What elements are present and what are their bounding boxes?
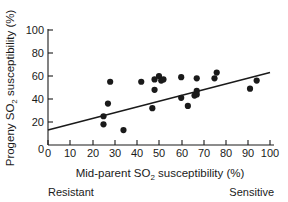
y-tick-label: 80 bbox=[32, 47, 44, 59]
y-tick-label: 40 bbox=[32, 93, 44, 105]
resistant-endpoint-label: Resistant bbox=[48, 186, 94, 198]
x-tick-label: 90 bbox=[242, 147, 254, 159]
x-axis-title-post: susceptibility (%) bbox=[155, 167, 245, 179]
y-tick-label: 0 bbox=[38, 143, 44, 155]
x-axis-title: Mid-parent SO2 susceptibility (%) bbox=[76, 167, 245, 182]
data-point bbox=[160, 76, 166, 82]
x-axis-tick-labels: 0 10 20 30 40 50 60 70 80 90 100 bbox=[45, 147, 279, 159]
data-point bbox=[194, 91, 200, 97]
data-point bbox=[178, 95, 184, 101]
data-point bbox=[194, 75, 200, 81]
data-point bbox=[185, 103, 191, 109]
x-tick-label: 50 bbox=[153, 147, 165, 159]
data-point bbox=[105, 101, 111, 107]
y-axis-ticks bbox=[48, 30, 53, 122]
x-tick-label: 80 bbox=[220, 147, 232, 159]
x-tick-label: 100 bbox=[261, 147, 279, 159]
y-axis-title-pre: Progeny SO bbox=[4, 104, 16, 167]
x-axis-title-pre: Mid-parent SO bbox=[76, 167, 151, 179]
y-axis-title: Progeny SO2 susceptibility (%) bbox=[4, 10, 19, 167]
data-point bbox=[178, 74, 184, 80]
data-point bbox=[138, 79, 144, 85]
data-point bbox=[247, 86, 253, 92]
data-point-group bbox=[100, 69, 259, 133]
data-point bbox=[120, 127, 126, 133]
sensitive-endpoint-label: Sensitive bbox=[229, 186, 274, 198]
chart-canvas: 100 80 60 40 20 0 0 10 20 30 40 bbox=[0, 0, 288, 202]
scatter-plot-figure: 100 80 60 40 20 0 0 10 20 30 40 bbox=[0, 0, 288, 202]
x-tick-label: 10 bbox=[64, 147, 76, 159]
x-tick-label: 60 bbox=[176, 147, 188, 159]
y-tick-label: 100 bbox=[26, 24, 44, 36]
x-tick-label: 30 bbox=[109, 147, 121, 159]
data-point bbox=[214, 69, 220, 75]
x-axis-ticks bbox=[48, 140, 270, 145]
x-tick-label: 40 bbox=[131, 147, 143, 159]
data-point bbox=[100, 113, 106, 119]
data-point bbox=[151, 87, 157, 93]
data-point bbox=[149, 105, 155, 111]
data-point bbox=[254, 78, 260, 84]
y-axis-tick-labels: 100 80 60 40 20 0 bbox=[26, 24, 44, 155]
x-tick-label: 0 bbox=[45, 147, 51, 159]
data-point bbox=[107, 79, 113, 85]
data-point bbox=[211, 75, 217, 81]
x-tick-label: 70 bbox=[198, 147, 210, 159]
y-tick-label: 60 bbox=[32, 70, 44, 82]
y-tick-label: 20 bbox=[32, 116, 44, 128]
data-point bbox=[100, 121, 106, 127]
y-axis-title-post: susceptibility (%) bbox=[4, 10, 16, 100]
x-tick-label: 20 bbox=[87, 147, 99, 159]
